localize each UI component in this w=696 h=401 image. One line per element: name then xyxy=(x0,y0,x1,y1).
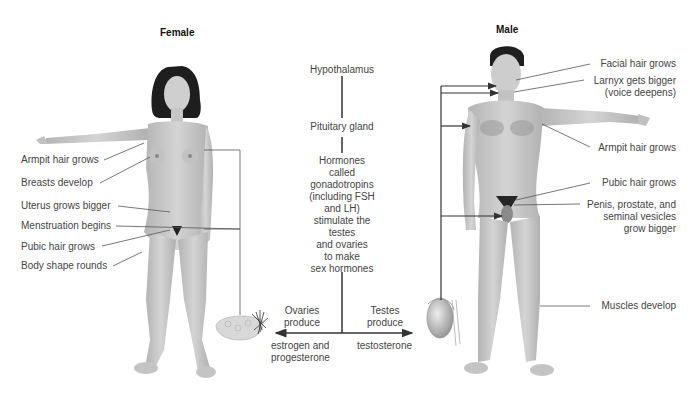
female-title: Female xyxy=(160,27,194,38)
pituitary-gland-label: Pituitary gland xyxy=(292,121,392,133)
gonadotropins-text: Hormones called gonadotropins (including… xyxy=(287,155,397,275)
estrogen-progesterone-label: estrogen and progesterone xyxy=(271,340,330,364)
male-label-grow-bigger: grow bigger xyxy=(624,223,676,235)
estrogen-line: estrogen and xyxy=(271,340,330,352)
ovaries-produce-line: produce xyxy=(272,317,332,329)
female-label-body-shape: Body shape rounds xyxy=(21,260,107,272)
gonadotropins-line: (including FSH xyxy=(287,191,397,203)
ovaries-produce-line: Ovaries xyxy=(272,305,332,317)
ovary-illustration xyxy=(216,310,268,340)
male-label-muscles: Muscles develop xyxy=(602,300,676,312)
male-label-seminal-vesicles: seminal vesicles xyxy=(603,211,676,223)
male-title: Male xyxy=(496,24,518,35)
testes-produce-label: Testes produce xyxy=(355,305,415,329)
male-label-armpit-hair: Armpit hair grows xyxy=(598,142,676,154)
male-label-larynx: Larnyx gets bigger xyxy=(594,75,676,87)
gonadotropins-line: called xyxy=(287,167,397,179)
female-label-breasts: Breasts develop xyxy=(21,177,93,189)
gonadotropins-line: and ovaries xyxy=(287,239,397,251)
gonadotropins-line: sex hormones xyxy=(287,263,397,275)
testis-illustration xyxy=(427,298,460,346)
gonadotropins-line: testes xyxy=(287,227,397,239)
testosterone-label: testosterone xyxy=(357,340,412,352)
gonadotropins-line: and LH) xyxy=(287,203,397,215)
gonadotropins-line: Hormones xyxy=(287,155,397,167)
male-label-pubic-hair: Pubic hair grows xyxy=(602,177,676,189)
male-label-facial-hair: Facial hair grows xyxy=(600,58,676,70)
gonadotropins-line: stimulate the xyxy=(287,215,397,227)
gonadotropins-line: gonadotropins xyxy=(287,179,397,191)
ovaries-produce-label: Ovaries produce xyxy=(272,305,332,329)
testes-produce-line: produce xyxy=(355,317,415,329)
gonadotropins-line: to make xyxy=(287,251,397,263)
testes-produce-line: Testes xyxy=(355,305,415,317)
female-label-armpit-hair: Armpit hair grows xyxy=(21,154,99,166)
female-label-pubic-hair: Pubic hair grows xyxy=(21,241,95,253)
female-label-menstruation: Menstruation begins xyxy=(21,220,111,232)
hypothalamus-label: Hypothalamus xyxy=(292,64,392,76)
male-label-penis-prostate: Penis, prostate, and xyxy=(587,199,676,211)
estrogen-line: progesterone xyxy=(271,352,330,364)
female-label-uterus: Uterus grows bigger xyxy=(21,200,110,212)
male-label-voice: (voice deepens) xyxy=(605,87,676,99)
